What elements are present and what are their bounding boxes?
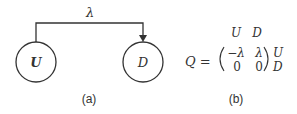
row-header-d: D	[272, 60, 283, 74]
node-d-label: D	[137, 55, 149, 70]
arrowhead-icon	[139, 35, 147, 42]
matrix-lhs: Q =	[185, 54, 211, 69]
edge-label: λ	[85, 5, 94, 20]
rate-matrix: U D Q = −λ λ 0 0 U D (b)	[185, 26, 284, 106]
matrix-cell-0-1: λ	[254, 46, 263, 60]
caption-b: (b)	[229, 92, 244, 106]
markov-diagram: λ U D (a) U D Q = −λ λ 0 0 U D (b)	[0, 0, 297, 114]
state-diagram: λ U D (a)	[16, 5, 163, 106]
matrix-cell-1-1: 0	[255, 60, 263, 74]
left-paren	[220, 47, 224, 71]
row-header-u: U	[273, 46, 284, 60]
matrix-cell-0-0: −λ	[227, 46, 245, 60]
matrix-cell-1-0: 0	[233, 60, 241, 74]
right-paren	[264, 47, 268, 71]
col-header-u: U	[231, 26, 242, 40]
col-header-d: D	[251, 26, 262, 40]
node-u-label: U	[30, 55, 42, 70]
transition-edge	[36, 23, 143, 42]
caption-a: (a)	[82, 92, 97, 106]
